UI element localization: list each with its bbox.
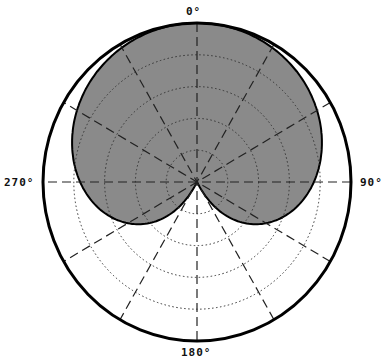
angle-label-180: 180°: [181, 346, 212, 359]
polar-chart: [0, 0, 385, 362]
angle-label-90: 90°: [360, 176, 383, 189]
angle-label-0: 0°: [186, 5, 201, 18]
angle-label-270: 270°: [4, 176, 35, 189]
